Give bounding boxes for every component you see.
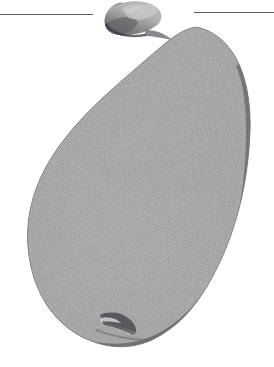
stem-socket-shadow <box>144 30 172 40</box>
pear-body <box>20 13 265 356</box>
pear-illustration-svg <box>0 0 274 367</box>
screenshot-canvas: Black and white halftone photograph of a… <box>0 0 274 367</box>
pear-photograph: Black and white halftone photograph of a… <box>0 0 274 367</box>
